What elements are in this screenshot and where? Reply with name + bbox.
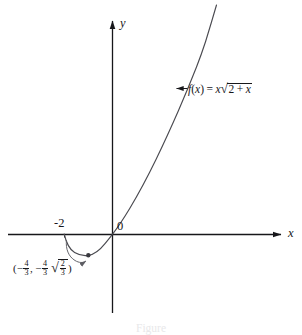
function-paren-close: ) xyxy=(200,83,204,95)
minimum-point-coordinate-label: (−43,−43√23) xyxy=(13,259,72,278)
graph-vector-layer xyxy=(0,0,302,335)
function-equation-label: f(x)=x√2+x xyxy=(188,82,252,96)
origin-label: 0 xyxy=(117,220,123,233)
coord-x-fraction: 43 xyxy=(23,260,29,278)
square-root-icon: √2+x xyxy=(221,82,253,96)
coord-comma: , xyxy=(30,262,33,274)
coord-y-minus-sign: − xyxy=(35,262,41,274)
radicand-second-term: x xyxy=(246,83,251,95)
coord-y-denominator: 3 xyxy=(42,269,48,277)
coord-x-denominator: 3 xyxy=(23,269,29,277)
coord-x-minus-sign: − xyxy=(17,262,23,274)
x-axis-label: x xyxy=(288,227,294,240)
coord-radicand-denominator: 3 xyxy=(60,269,66,277)
function-curve xyxy=(64,5,216,256)
figure-caption: Figure xyxy=(0,322,302,334)
minimum-point-dot xyxy=(86,253,90,257)
coord-radicand-fraction: 23 xyxy=(60,260,66,278)
y-axis-label: y xyxy=(120,17,126,30)
coord-y-fraction: 43 xyxy=(42,260,48,278)
radicand-plus-sign: + xyxy=(237,83,244,95)
function-equals-sign: = xyxy=(207,83,214,95)
coord-square-root-icon: √23 xyxy=(51,259,68,278)
coord-paren-close: ) xyxy=(68,262,72,274)
radicand-first-term: 2 xyxy=(229,83,235,95)
x-tick-label-minus-2: -2 xyxy=(54,217,64,230)
figure-graph-of-function: y x -2 0 f(x)=x√2+x (−43,−43√23) Figure xyxy=(0,0,302,335)
